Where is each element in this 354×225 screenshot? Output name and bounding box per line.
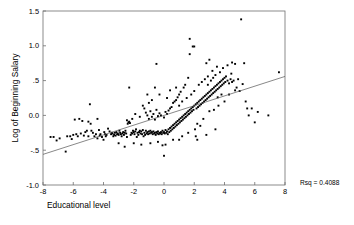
scatter-point	[178, 139, 180, 141]
scatter-plot-figure: -8-6-4-202468 -1.0-.50.0.51.01.5 Educati…	[0, 0, 354, 225]
scatter-point	[171, 106, 173, 108]
scatter-point	[233, 80, 235, 82]
scatter-point	[198, 84, 200, 86]
scatter-point	[118, 134, 120, 136]
scatter-point	[142, 129, 144, 131]
x-tick-label: 6	[253, 187, 257, 196]
scatter-point	[224, 101, 226, 103]
scatter-point	[224, 81, 226, 83]
scatter-point	[257, 111, 259, 113]
scatter-point	[181, 101, 183, 103]
scatter-point	[163, 155, 165, 157]
scatter-point	[236, 87, 238, 89]
x-tick-label: 2	[192, 187, 196, 196]
scatter-point	[234, 63, 236, 65]
scatter-point	[207, 84, 209, 86]
y-axis-title: Log of Beginning Salary	[10, 53, 20, 143]
scatter-point	[196, 139, 198, 141]
scatter-point	[139, 116, 141, 118]
scatter-point	[254, 121, 256, 123]
scatter-point	[148, 102, 150, 104]
scatter-point	[75, 133, 77, 135]
scatter-point	[231, 62, 233, 64]
scatter-point	[163, 117, 165, 119]
scatter-point	[212, 77, 214, 79]
scatter-point	[101, 136, 103, 138]
scatter-point	[230, 78, 232, 80]
scatter-point	[180, 91, 182, 93]
scatter-point	[175, 87, 177, 89]
scatter-point	[169, 89, 171, 91]
scatter-point	[107, 128, 109, 130]
scatter-point	[154, 87, 156, 89]
scatter-point	[151, 99, 153, 101]
x-tick-label: -4	[100, 187, 107, 196]
scatter-point	[251, 107, 253, 109]
scatter-point	[189, 53, 191, 55]
scatter-point	[228, 82, 230, 84]
scatter-point	[210, 80, 212, 82]
scatter-point	[278, 71, 280, 73]
scatter-point	[121, 135, 123, 137]
y-tick-label: -1.0	[26, 181, 39, 190]
scatter-point	[240, 18, 242, 20]
scatter-point	[133, 142, 135, 144]
scatter-point	[202, 118, 204, 120]
scatter-point	[183, 87, 185, 89]
x-axis-title: Educational level	[47, 200, 110, 210]
scatter-point	[137, 134, 139, 136]
scatter-point	[177, 96, 179, 98]
scatter-point	[131, 118, 133, 120]
scatter-point	[81, 120, 83, 122]
scatter-point	[92, 132, 94, 134]
scatter-point	[109, 130, 111, 132]
scatter-point	[97, 118, 99, 120]
y-tick-label: -.5	[30, 146, 39, 155]
scatter-point	[103, 139, 105, 141]
scatter-point	[143, 107, 145, 109]
scatter-point	[201, 81, 203, 83]
scatter-point	[87, 121, 89, 123]
scatter-point	[87, 135, 89, 137]
scatter-point	[227, 64, 229, 66]
scatter-point	[196, 123, 198, 125]
y-tick-label: 1.5	[29, 7, 39, 16]
scatter-point	[72, 134, 74, 136]
scatter-point	[267, 114, 269, 116]
scatter-point	[74, 119, 76, 121]
scatter-point	[90, 130, 92, 132]
scatter-point	[248, 114, 250, 116]
scatter-point	[95, 133, 97, 135]
scatter-point	[178, 105, 180, 107]
scatter-point	[69, 135, 71, 137]
x-tick-label: 8	[283, 187, 287, 196]
scatter-point	[159, 94, 161, 96]
scatter-point	[242, 83, 244, 85]
x-tick-label: 0	[162, 187, 166, 196]
scatter-point	[146, 114, 148, 116]
scatter-point	[140, 144, 142, 146]
scatter-point	[193, 109, 195, 111]
scatter-point	[71, 138, 73, 140]
chart-svg: -8-6-4-202468 -1.0-.50.0.51.01.5 Educati…	[0, 0, 354, 225]
scatter-point	[129, 122, 131, 124]
scatter-point	[225, 75, 227, 77]
scatter-point	[208, 59, 210, 61]
scatter-point	[136, 136, 138, 138]
scatter-point	[80, 133, 82, 135]
scatter-point	[125, 133, 127, 135]
scatter-point	[78, 118, 80, 120]
scatter-point	[155, 63, 157, 65]
scatter-point	[218, 105, 220, 107]
scatter-point	[141, 133, 143, 135]
scatter-point	[134, 113, 136, 115]
scatter-point	[187, 132, 189, 134]
scatter-point	[195, 135, 197, 137]
scatter-point	[98, 129, 100, 131]
scatter-point	[124, 130, 126, 132]
scatter-point	[143, 132, 145, 134]
scatter-point	[90, 123, 92, 125]
scatter-point	[103, 131, 105, 133]
scatter-point	[234, 89, 236, 91]
scatter-point	[208, 110, 210, 112]
